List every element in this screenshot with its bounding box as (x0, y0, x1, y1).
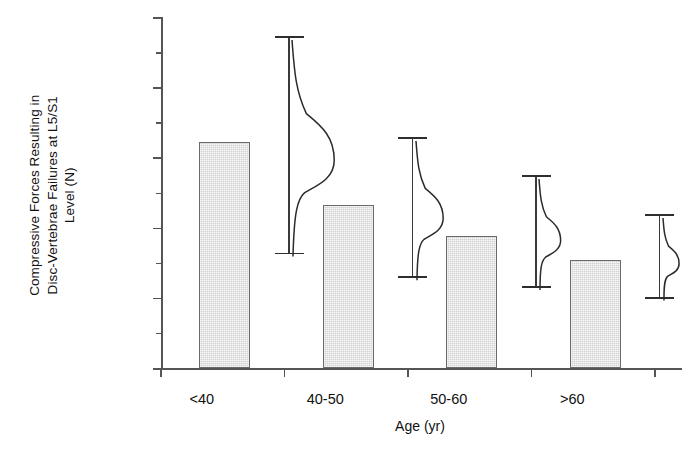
y-tick-major (153, 157, 161, 159)
y-tick-minor (156, 193, 161, 195)
error-bar-cap-upper (522, 175, 551, 177)
error-bar-cap-upper (275, 36, 304, 38)
y-tick-major (153, 17, 161, 19)
y-tick-major (153, 298, 161, 300)
y-tick-minor (156, 263, 161, 265)
y-axis-title: Compressive Forces Resulting inDisc-Vert… (26, 25, 79, 365)
y-axis-title-line1: Compressive Forces Resulting in (27, 95, 42, 296)
distribution-curve (661, 218, 689, 308)
x-tick (284, 368, 286, 377)
distribution-curve (537, 179, 571, 298)
x-axis-line (161, 368, 682, 370)
error-bar-cap-upper (398, 137, 427, 139)
x-tick-label: 50-60 (430, 391, 467, 407)
y-axis-line (161, 17, 163, 369)
bar (446, 236, 497, 368)
y-tick-major (153, 87, 161, 89)
x-tick-label: <40 (189, 391, 214, 407)
bar (323, 205, 374, 368)
bar (570, 260, 621, 368)
plot-area: 0200040006000800010000 <4040-5050-60>60 (161, 17, 682, 368)
error-bar-cap-upper (645, 214, 674, 216)
y-axis-title-line3: Level (N) (62, 167, 77, 223)
y-tick-minor (156, 122, 161, 124)
x-axis-title: Age (yr) (150, 418, 690, 434)
x-tick (654, 368, 656, 377)
x-tick-label: 40-50 (307, 391, 344, 407)
chart-figure: Compressive Forces Resulting inDisc-Vert… (0, 0, 694, 457)
y-tick-major (153, 228, 161, 230)
x-tick (160, 368, 162, 377)
bar (199, 142, 250, 368)
x-tick (531, 368, 533, 377)
x-tick (407, 368, 409, 377)
y-axis-title-line2: Disc-Vertebrae Failures at L5/S1 (44, 96, 59, 294)
x-tick-label: >60 (560, 391, 585, 407)
y-tick-minor (156, 333, 161, 335)
y-tick-minor (156, 52, 161, 54)
